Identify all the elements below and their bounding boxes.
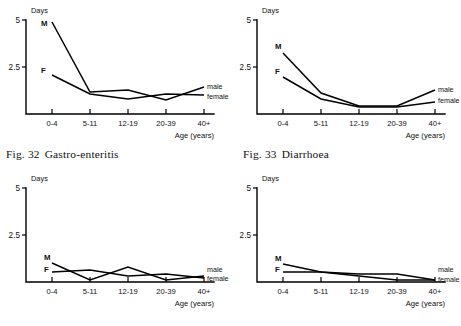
- legend-label-female: female: [438, 275, 460, 284]
- x-tick-label-1: 5-11: [314, 287, 329, 296]
- x-tick-label-0: 0-4: [278, 287, 289, 296]
- axis-lines: [257, 188, 445, 282]
- chart-svg-0: Days 5 2.5 0-4 5-11 12-19 20-39 40+ Age …: [0, 0, 230, 142]
- y-tick-label-2point5: 2.5: [9, 231, 21, 240]
- chart-panel-bottom-right: Days 5 2.5 0-4 5-11 12-19 20-39 40+ Age …: [231, 168, 461, 310]
- x-axis-title: Age (years): [175, 299, 215, 308]
- x-tick-label-2: 12-19: [349, 287, 368, 296]
- series-marker-female: F: [275, 265, 280, 274]
- x-tick-label-0: 0-4: [47, 119, 58, 128]
- y-tick-label-2point5: 2.5: [240, 231, 252, 240]
- figure-caption-33-number: Fig. 33: [243, 148, 277, 160]
- x-tick-label-3: 20-39: [387, 287, 406, 296]
- figure-caption-32: Fig. 32Gastro-enteritis: [6, 148, 119, 160]
- x-tick-label-4: 40+: [198, 119, 211, 128]
- y-tick-label-2point5: 2.5: [9, 63, 21, 72]
- y-tick-label-5: 5: [15, 16, 20, 25]
- figure-caption-32-title: Gastro-enteritis: [45, 148, 119, 160]
- series-line-female: [283, 77, 435, 107]
- chart-panel-diarrhoea: Days 5 2.5 0-4 5-11 12-19 20-39 40+ Age …: [231, 0, 461, 142]
- legend-label-male: male: [207, 82, 223, 91]
- chart-panel-bottom-left: Days 5 2.5 0-4 5-11 12-19 20-39 40+ Age …: [0, 168, 230, 310]
- axis-lines: [257, 20, 445, 114]
- y-axis-unit-label: Days: [262, 174, 279, 183]
- x-tick-label-0: 0-4: [278, 119, 289, 128]
- x-tick-label-4: 40+: [198, 287, 211, 296]
- axes-2: [22, 188, 214, 282]
- axis-lines: [26, 188, 214, 282]
- legend-label-male: male: [438, 85, 454, 94]
- x-tick-label-1: 5-11: [83, 119, 98, 128]
- y-tick-label-5: 5: [246, 16, 251, 25]
- legend-label-female: female: [207, 274, 229, 283]
- x-axis-title: Age (years): [406, 299, 446, 308]
- series-marker-female: F: [41, 66, 46, 75]
- x-tick-label-4: 40+: [429, 119, 442, 128]
- series-marker-male: M: [275, 254, 282, 263]
- y-axis-unit-label: Days: [262, 6, 279, 15]
- chart-svg-3: Days 5 2.5 0-4 5-11 12-19 20-39 40+ Age …: [231, 168, 461, 310]
- chart-svg-2: Days 5 2.5 0-4 5-11 12-19 20-39 40+ Age …: [0, 168, 230, 310]
- axes-0: [22, 20, 214, 114]
- x-tick-label-3: 20-39: [156, 119, 175, 128]
- y-tick-label-5: 5: [15, 184, 20, 193]
- x-tick-label-2: 12-19: [118, 287, 137, 296]
- x-tick-label-4: 40+: [429, 287, 442, 296]
- legend-label-female: female: [207, 92, 229, 101]
- legend-label-male: male: [207, 265, 223, 274]
- x-tick-label-1: 5-11: [83, 287, 98, 296]
- x-tick-label-2: 12-19: [349, 119, 368, 128]
- x-tick-label-1: 5-11: [314, 119, 329, 128]
- y-axis-unit-label: Days: [31, 174, 48, 183]
- y-tick-label-5: 5: [246, 184, 251, 193]
- axis-lines: [26, 20, 214, 114]
- axes-3: [253, 188, 445, 282]
- series-marker-female: F: [44, 265, 49, 274]
- chart-svg-1: Days 5 2.5 0-4 5-11 12-19 20-39 40+ Age …: [231, 0, 461, 142]
- series-marker-male: M: [41, 19, 48, 28]
- series-marker-male: M: [275, 42, 282, 51]
- x-tick-label-0: 0-4: [47, 287, 58, 296]
- x-axis-title: Age (years): [406, 131, 446, 140]
- y-axis-unit-label: Days: [31, 6, 48, 15]
- x-tick-label-3: 20-39: [156, 287, 175, 296]
- legend-label-female: female: [438, 96, 460, 105]
- y-tick-label-2point5: 2.5: [240, 63, 252, 72]
- series-marker-female: F: [275, 67, 280, 76]
- legend-label-male: male: [438, 265, 454, 274]
- series-line-male: [283, 53, 435, 106]
- series-marker-male: M: [44, 253, 51, 262]
- figure-caption-33-title: Diarrhoea: [282, 148, 329, 160]
- x-tick-label-3: 20-39: [387, 119, 406, 128]
- x-axis-title: Age (years): [175, 131, 215, 140]
- x-tick-label-2: 12-19: [118, 119, 137, 128]
- figure-caption-33: Fig. 33Diarrhoea: [243, 148, 329, 160]
- axes-1: [253, 20, 445, 114]
- figure-caption-32-number: Fig. 32: [6, 148, 40, 160]
- series-line-male: [52, 22, 204, 100]
- figure-page: Days 5 2.5 0-4 5-11 12-19 20-39 40+ Age …: [0, 0, 461, 326]
- chart-panel-gastro-enteritis: Days 5 2.5 0-4 5-11 12-19 20-39 40+ Age …: [0, 0, 230, 142]
